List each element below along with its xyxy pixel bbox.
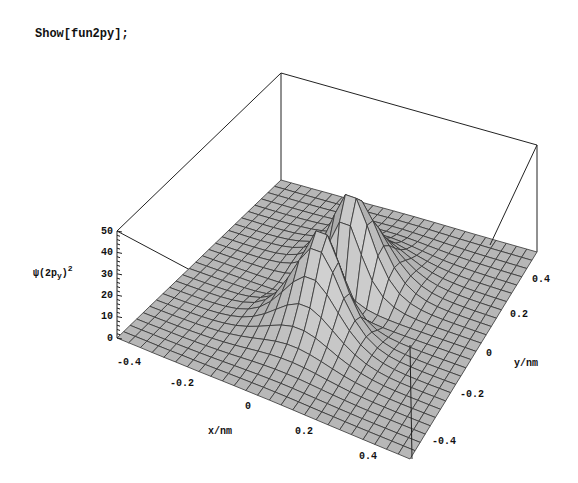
- y-tick-neg02: -0.2: [460, 389, 484, 400]
- z-tick-50: 50: [101, 226, 113, 237]
- x-tick-neg02: -0.2: [170, 378, 194, 389]
- box-top-back-edge: [281, 73, 537, 145]
- z-axis-tick: [117, 295, 122, 296]
- z-tick-10: 10: [101, 311, 113, 322]
- z-axis-tick: [117, 274, 122, 275]
- y-tick-neg04: -0.4: [432, 436, 456, 447]
- surface-mesh: [117, 180, 537, 459]
- z-tick-40: 40: [101, 247, 113, 258]
- box-right-diagonal-edge: [490, 145, 537, 245]
- z-tick-20: 20: [101, 290, 113, 301]
- x-tick-neg04: -0.4: [117, 357, 141, 368]
- x-axis-label: x/nm: [208, 426, 232, 437]
- z-axis-tick: [117, 317, 122, 318]
- z-tick-0: 0: [107, 333, 113, 344]
- y-tick-02: 0.2: [510, 309, 528, 320]
- x-tick-02: 0.2: [295, 426, 313, 437]
- y-tick-0: 0: [486, 348, 492, 359]
- z-tick-30: 30: [101, 269, 113, 280]
- y-tick-04: 0.4: [532, 274, 550, 285]
- x-tick-0: 0: [245, 401, 251, 412]
- x-tick-04: 0.4: [359, 451, 377, 462]
- surface-plot: 50 40 30 20 10 0 ψ(2py)2 -0.4 -0.2 0 0.2…: [0, 0, 578, 483]
- z-axis-tick: [117, 252, 122, 253]
- z-axis: [117, 231, 122, 339]
- y-axis-label: y/nm: [514, 358, 538, 369]
- z-axis-label: ψ(2py)2: [33, 264, 73, 280]
